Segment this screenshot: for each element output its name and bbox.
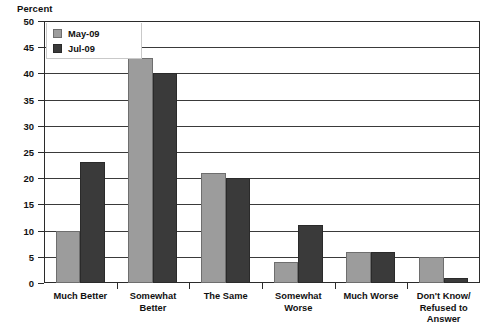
gridline [45,73,479,74]
x-axis-label-line: Much Worse [335,291,408,303]
x-axis-tick-mark [407,283,408,289]
x-axis-label-line: The Same [189,291,262,303]
gridline [45,257,479,258]
y-axis-tick-mark [38,283,44,284]
y-axis-tick-label: 40 [4,68,34,79]
y-axis: 05101520253035404550 [0,21,44,283]
gridline [45,126,479,127]
x-axis-tick-mark [335,283,336,289]
y-axis-tick-label: 10 [4,225,34,236]
chart-legend: May-09Jul-09 [46,23,142,59]
gridline [45,100,479,101]
x-axis-label-line: Somewhat Better [117,291,190,314]
y-axis-tick-label: 25 [4,147,34,158]
x-axis-tick-mark [117,283,118,289]
plot-area [44,21,480,283]
x-axis-label-line: Refused to Answer [407,303,480,326]
gridline [45,231,479,232]
y-axis-tick-label: 5 [4,251,34,262]
legend-item: Jul-09 [53,41,141,56]
x-axis-tick-mark [262,283,263,289]
y-axis-title: Percent [17,3,53,14]
x-axis-tick-label: The Same [189,291,262,303]
gridline [45,204,479,205]
x-axis-tick-label: Don't Know/Refused to Answer [407,291,480,326]
series-1-swatch [53,29,62,38]
x-axis-label-line: Much Better [44,291,117,303]
gridline [45,178,479,179]
gridline [45,152,479,153]
x-axis-tick-label: Much Worse [335,291,408,303]
y-axis-tick-label: 45 [4,42,34,53]
legend-item: May-09 [53,26,141,41]
y-axis-tick-label: 50 [4,16,34,27]
x-axis-label-line: Somewhat Worse [262,291,335,314]
y-axis-tick-label: 15 [4,199,34,210]
gridline [45,21,479,22]
x-axis-tick-mark [189,283,190,289]
legend-item-label: May-09 [68,29,100,39]
legend-item-label: Jul-09 [68,44,95,54]
y-axis-tick-label: 20 [4,173,34,184]
y-axis-tick-label: 35 [4,94,34,105]
x-axis-tick-label: Somewhat Worse [262,291,335,314]
x-axis-tick-label: Somewhat Better [117,291,190,314]
bar-chart: Percent 05101520253035404550 Much Better… [0,0,489,326]
x-axis-label-line: Don't Know/ [407,291,480,303]
x-axis-tick-label: Much Better [44,291,117,303]
series-2-swatch [53,44,62,53]
y-axis-tick-label: 30 [4,120,34,131]
y-axis-tick-label: 0 [4,278,34,289]
